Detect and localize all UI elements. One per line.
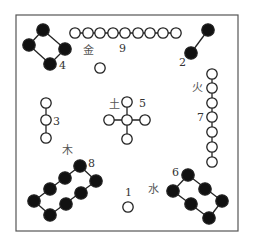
yin-dot xyxy=(182,169,194,181)
yang-dot xyxy=(122,115,132,125)
number-label-7: 7 xyxy=(197,111,204,124)
yang-dot xyxy=(207,83,217,93)
element-label-earth: 土 xyxy=(109,98,120,111)
connector-line xyxy=(50,181,96,215)
number-label-1: 1 xyxy=(125,186,132,199)
number-label-9: 9 xyxy=(119,42,126,55)
yin-dot xyxy=(75,187,87,199)
yang-dot xyxy=(123,202,133,212)
yin-dot xyxy=(185,198,197,210)
yang-dot xyxy=(207,157,217,167)
yang-dot xyxy=(145,28,155,38)
luoshu-diagram: 123456789 金火土木水 xyxy=(0,0,253,251)
yang-dot xyxy=(104,115,114,125)
yang-dot xyxy=(122,97,132,107)
yang-dot xyxy=(158,28,168,38)
number-label-2: 2 xyxy=(179,56,186,69)
yin-dot xyxy=(60,198,72,210)
connector-line xyxy=(34,166,80,201)
element-label-metal: 金 xyxy=(83,43,94,57)
yin-dot xyxy=(216,195,228,207)
yin-dot xyxy=(44,209,56,221)
yang-dot xyxy=(207,112,217,122)
yin-dot xyxy=(199,183,211,195)
number-label-4: 4 xyxy=(59,59,66,72)
yang-dot xyxy=(122,134,132,144)
yang-dot xyxy=(120,28,130,38)
yang-dot xyxy=(133,28,143,38)
yin-dot xyxy=(90,175,102,187)
yin-dot xyxy=(185,47,197,59)
yang-dot xyxy=(41,98,51,108)
yin-dot xyxy=(202,24,214,36)
yang-dot xyxy=(207,98,217,108)
yang-dot xyxy=(207,127,217,137)
number-label-6: 6 xyxy=(172,166,179,179)
yang-dot xyxy=(41,115,51,125)
yin-dot xyxy=(23,39,35,51)
yin-dot xyxy=(37,24,49,36)
yin-dot xyxy=(28,195,40,207)
yang-dot xyxy=(83,28,93,38)
number-label-5: 5 xyxy=(139,97,146,110)
number-label-8: 8 xyxy=(88,157,95,170)
element-label-fire: 火 xyxy=(192,81,203,94)
yang-dot xyxy=(70,28,80,38)
yin-dot xyxy=(59,172,71,184)
yin-dot xyxy=(44,58,56,70)
element-label-water: 水 xyxy=(148,183,159,196)
yin-dot xyxy=(59,43,71,55)
yang-dot xyxy=(95,63,105,73)
yin-dot xyxy=(167,185,179,197)
yang-dot xyxy=(108,28,118,38)
number-label-3: 3 xyxy=(53,115,60,128)
yang-dot xyxy=(207,142,217,152)
yin-dot xyxy=(203,212,215,224)
yang-dot xyxy=(95,28,105,38)
element-label-wood: 木 xyxy=(62,144,73,157)
yang-dot xyxy=(41,133,51,143)
yin-dot xyxy=(74,160,86,172)
yang-dot xyxy=(171,28,181,38)
yang-dot xyxy=(207,69,217,79)
yang-dot xyxy=(140,115,150,125)
yin-dot xyxy=(44,183,56,195)
